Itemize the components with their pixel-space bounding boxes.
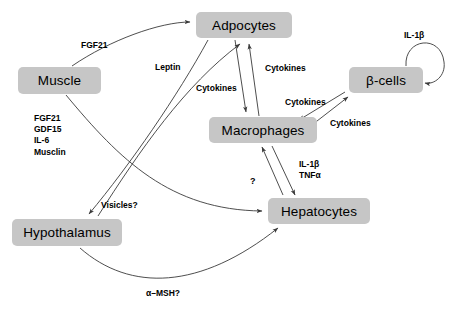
node-beta-cells[interactable]: β-cells	[349, 67, 423, 93]
edge-label-question-hepatocytes-macrophages: ?	[250, 176, 256, 187]
edge-label-alpha-msh: α–MSH?	[146, 288, 180, 299]
edge-label-muscle-secreted-factors: FGF21 GDF15 IL-6 Musclin	[34, 113, 66, 158]
edge-label-cytokines-macrophages-betacells: Cytokines	[330, 118, 371, 129]
edge-adipocytes-to-hypothalamus	[89, 40, 208, 214]
diagram-edges-layer	[0, 0, 458, 313]
node-hepatocytes[interactable]: Hepatocytes	[268, 198, 370, 224]
node-adipocytes[interactable]: Adpocytes	[196, 12, 292, 38]
edge-label-il1b-betacells-loop: IL-1β	[404, 30, 424, 41]
edge-label-cytokines-betacells-macrophages: Cytokines	[285, 97, 326, 108]
signalling-diagram: Adpocytes Muscle β-cells Macrophages Hyp…	[0, 0, 458, 313]
edge-macrophages-to-adipocytes	[249, 44, 259, 116]
edge-label-cytokines-macrophages-adipocytes: Cytokines	[265, 63, 306, 74]
edge-hepatocytes-to-macrophages	[262, 147, 283, 195]
edge-macrophages-to-hepatocytes	[272, 146, 295, 195]
edge-label-fgf21-muscle-adipocytes: FGF21	[81, 40, 107, 51]
edge-adipocytes-to-macrophages	[235, 40, 246, 112]
node-macrophages[interactable]: Macrophages	[209, 117, 317, 143]
node-muscle[interactable]: Muscle	[18, 67, 101, 94]
edge-label-visicles: Visicles?	[101, 200, 138, 211]
edge-label-cytokines-adipocytes-macrophages: Cytokines	[196, 83, 237, 94]
edge-label-il1b-tnfa: IL-1β TNFα	[299, 159, 321, 181]
node-hypothalamus[interactable]: Hypothalamus	[12, 219, 122, 246]
edge-label-leptin: Leptin	[155, 62, 181, 73]
